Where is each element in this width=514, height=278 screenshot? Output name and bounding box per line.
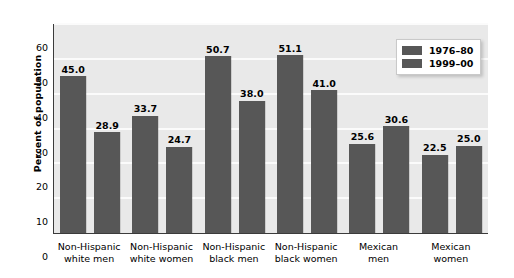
bar[interactable]	[383, 126, 409, 233]
legend-row[interactable]: 1976–80	[402, 44, 473, 57]
bar-value-label: 51.1	[278, 44, 301, 54]
x-axis-category-label-line: Non-Hispanic	[275, 241, 338, 252]
bar[interactable]	[205, 56, 231, 233]
y-tick-label: 30	[24, 148, 48, 158]
bar-slot: 25.6	[349, 24, 375, 233]
y-tick-label: 20	[24, 183, 48, 193]
x-axis-category-label: Non-Hispanicwhite men	[53, 239, 125, 273]
bar[interactable]	[60, 76, 86, 233]
x-axis-category-label: Mexicanmen	[342, 239, 414, 273]
bar[interactable]	[311, 90, 337, 233]
y-tick-label: 50	[24, 78, 48, 88]
legend-label: 1999–00	[429, 58, 473, 69]
bar-slot: 50.7	[205, 24, 231, 233]
bar-value-label: 30.6	[385, 115, 408, 125]
x-axis-category-label-line: black men	[198, 253, 270, 265]
legend-swatch-icon	[402, 46, 422, 55]
bar[interactable]	[132, 116, 158, 233]
x-axis-category-label: Non-Hispanicblack women	[270, 239, 342, 273]
bar-slot: 24.7	[166, 24, 192, 233]
legend-label: 1976–80	[429, 45, 473, 56]
bar-value-label: 22.5	[423, 143, 446, 153]
bar-value-label: 25.6	[351, 132, 374, 142]
bar-value-label: 38.0	[240, 89, 263, 99]
bar-value-label: 45.0	[61, 65, 84, 75]
x-axis-category-label: Mexicanwomen	[415, 239, 487, 273]
bar[interactable]	[239, 101, 265, 233]
legend-swatch-icon	[402, 59, 422, 68]
bar-value-label: 24.7	[168, 135, 191, 145]
x-axis-category-label: Non-Hispanicblack men	[198, 239, 270, 273]
x-axis-category-label-line: Non-Hispanic	[202, 241, 265, 252]
x-axis-category-labels: Non-Hispanicwhite menNon-Hispanicwhite w…	[53, 239, 487, 273]
bar[interactable]	[166, 147, 192, 233]
x-axis-category-label-line: women	[415, 253, 487, 265]
x-axis-category-label-line: Non-Hispanic	[130, 241, 193, 252]
legend-row[interactable]: 1999–00	[402, 57, 473, 70]
x-axis-category-label-line: Mexican	[359, 241, 398, 252]
legend: 1976–801999–00	[396, 39, 481, 75]
bar-value-label: 28.9	[95, 121, 118, 131]
bar-chart: Percent of population 0102030405060 45.0…	[0, 0, 514, 278]
bar[interactable]	[456, 146, 482, 233]
bar-value-label: 25.0	[457, 134, 480, 144]
bar-value-label: 41.0	[312, 79, 335, 89]
bar-group: 45.028.9	[54, 24, 126, 233]
y-tick-label: 60	[24, 43, 48, 53]
bar[interactable]	[422, 155, 448, 233]
bar[interactable]	[349, 144, 375, 233]
bar-slot: 33.7	[132, 24, 158, 233]
bar-value-label: 50.7	[206, 45, 229, 55]
y-tick-label: 10	[24, 217, 48, 227]
bar[interactable]	[94, 132, 120, 233]
bar-slot: 45.0	[60, 24, 86, 233]
x-axis-category-label-line: white men	[53, 253, 125, 265]
bar-slot: 51.1	[277, 24, 303, 233]
bar-slot: 38.0	[239, 24, 265, 233]
y-tick-label: 40	[24, 113, 48, 123]
x-axis-category-label-line: men	[342, 253, 414, 265]
bar-group: 51.141.0	[271, 24, 343, 233]
bar-group: 33.724.7	[126, 24, 198, 233]
y-axis-ticks: 0102030405060	[24, 24, 48, 233]
x-axis-category-label-line: Non-Hispanic	[58, 241, 121, 252]
bar-value-label: 33.7	[134, 104, 157, 114]
x-axis-category-label-line: white women	[125, 253, 197, 265]
x-axis-category-label-line: Mexican	[431, 241, 470, 252]
x-axis-category-label-line: black women	[270, 253, 342, 265]
bar-slot: 41.0	[311, 24, 337, 233]
bar-slot: 28.9	[94, 24, 120, 233]
bar[interactable]	[277, 55, 303, 233]
x-axis-category-label: Non-Hispanicwhite women	[125, 239, 197, 273]
bar-group: 50.738.0	[199, 24, 271, 233]
y-tick-label: 0	[24, 252, 48, 262]
